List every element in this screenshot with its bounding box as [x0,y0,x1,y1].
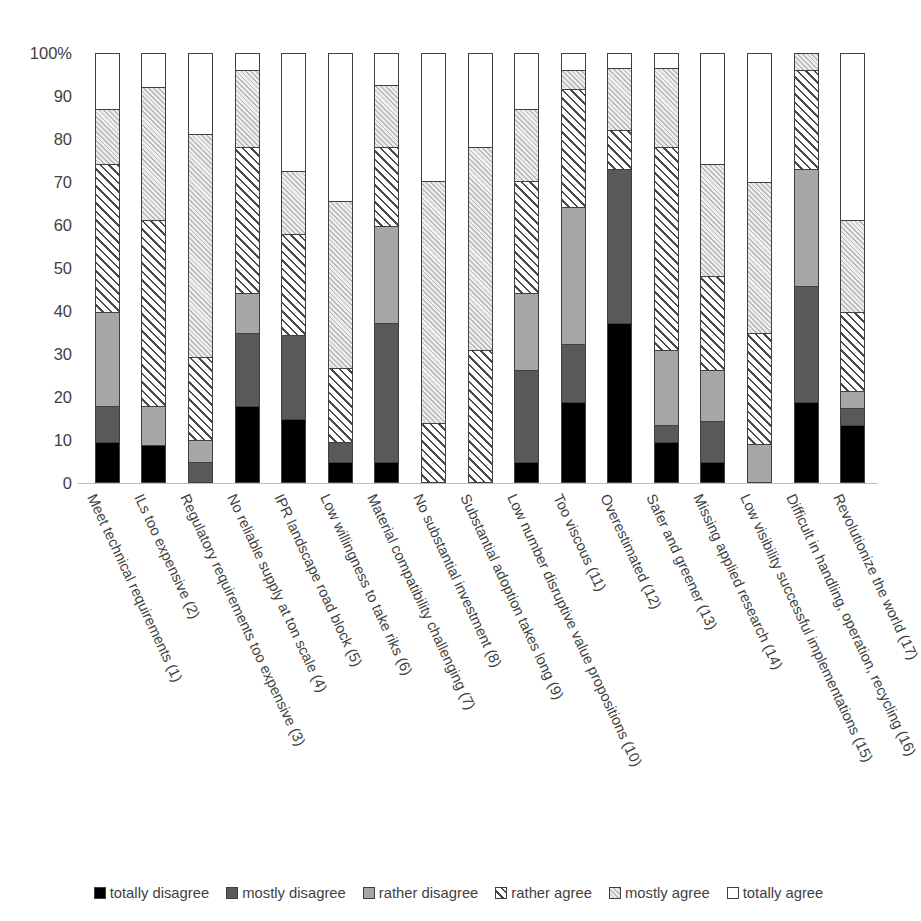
bar-segment-rather-agree[interactable] [469,351,492,482]
bar-segment-rather-agree[interactable] [329,369,352,444]
bar-column[interactable] [141,53,166,483]
bar-segment-rather-disagree[interactable] [562,208,585,345]
stacked-bar[interactable] [654,53,679,483]
bar-segment-mostly-disagree[interactable] [795,287,818,403]
bar-segment-totally-disagree[interactable] [236,407,259,482]
bar-segment-rather-agree[interactable] [189,358,212,441]
bar-segment-totally-disagree[interactable] [375,463,398,482]
stacked-bar[interactable] [95,53,120,483]
bar-segment-rather-agree[interactable] [375,148,398,227]
legend-item[interactable]: totally agree [727,886,824,901]
bar-segment-totally-agree[interactable] [608,54,631,69]
stacked-bar[interactable] [607,53,632,483]
bar-segment-rather-agree[interactable] [748,334,771,446]
bar-segment-totally-disagree[interactable] [282,420,305,482]
bar-segment-totally-agree[interactable] [142,54,165,88]
bar-segment-rather-disagree[interactable] [748,445,771,482]
stacked-bar[interactable] [281,53,306,483]
bar-segment-rather-disagree[interactable] [236,294,259,335]
bar-segment-totally-agree[interactable] [422,54,445,182]
bar-segment-mostly-disagree[interactable] [562,345,585,403]
bar-segment-totally-agree[interactable] [189,54,212,135]
bar-segment-totally-agree[interactable] [236,54,259,71]
bar-segment-totally-agree[interactable] [329,54,352,202]
bar-column[interactable] [95,53,120,483]
bar-segment-totally-disagree[interactable] [562,403,585,482]
bar-segment-mostly-agree[interactable] [422,182,445,424]
bar-segment-rather-agree[interactable] [282,235,305,336]
bar-column[interactable] [468,53,493,483]
bar-segment-rather-disagree[interactable] [841,392,864,409]
bar-segment-mostly-disagree[interactable] [189,463,212,482]
bar-segment-mostly-agree[interactable] [375,86,398,148]
bar-segment-mostly-disagree[interactable] [701,422,724,463]
bar-segment-mostly-disagree[interactable] [236,334,259,407]
stacked-bar[interactable] [561,53,586,483]
bar-segment-totally-disagree[interactable] [608,324,631,482]
bar-segment-rather-disagree[interactable] [655,351,678,426]
stacked-bar[interactable] [794,53,819,483]
bar-segment-mostly-agree[interactable] [96,110,119,166]
bar-segment-mostly-agree[interactable] [142,88,165,221]
stacked-bar[interactable] [468,53,493,483]
bar-column[interactable] [514,53,539,483]
bar-segment-totally-agree[interactable] [701,54,724,165]
bar-column[interactable] [374,53,399,483]
bar-segment-totally-agree[interactable] [748,54,771,183]
bar-column[interactable] [281,53,306,483]
bar-segment-mostly-disagree[interactable] [282,336,305,420]
bar-segment-rather-agree[interactable] [515,182,538,293]
bar-segment-totally-agree[interactable] [282,112,305,172]
bar-segment-mostly-agree[interactable] [748,183,771,334]
bar-segment-totally-disagree[interactable] [515,463,538,482]
bar-segment-mostly-agree[interactable] [655,69,678,148]
legend-item[interactable]: rather agree [495,886,592,901]
stacked-bar[interactable] [235,53,260,483]
bar-segment-rather-agree[interactable] [795,71,818,169]
bar-segment-mostly-agree[interactable] [469,148,492,351]
bar-segment-mostly-disagree[interactable] [96,407,119,443]
bar-column[interactable] [747,53,772,483]
bar-segment-totally-disagree[interactable] [142,446,165,482]
bar-segment-rather-disagree[interactable] [795,170,818,288]
legend-item[interactable]: totally disagree [94,886,210,901]
bar-segment-totally-disagree[interactable] [96,443,119,482]
bar-segment-mostly-disagree[interactable] [515,371,538,463]
bar-segment-totally-agree[interactable] [96,54,119,110]
bar-segment-mostly-disagree[interactable] [375,324,398,463]
bar-segment-rather-disagree[interactable] [189,441,212,462]
bar-segment-mostly-agree[interactable] [841,221,864,313]
bar-segment-rather-disagree[interactable] [515,294,538,371]
bar-segment-totally-agree[interactable] [562,54,585,71]
stacked-bar[interactable] [840,53,865,483]
bar-column[interactable] [794,53,819,483]
bar-segment-rather-agree[interactable] [422,424,445,482]
stacked-bar[interactable] [141,53,166,483]
bar-segment-rather-disagree[interactable] [701,371,724,422]
bar-segment-totally-disagree[interactable] [841,426,864,482]
bar-segment-mostly-agree[interactable] [701,165,724,276]
bar-segment-mostly-disagree[interactable] [608,170,631,324]
bar-column[interactable] [654,53,679,483]
bar-segment-mostly-agree[interactable] [795,54,818,71]
bar-segment-totally-agree[interactable] [841,54,864,221]
bar-segment-totally-agree[interactable] [655,54,678,69]
bar-column[interactable] [421,53,446,483]
bar-segment-mostly-disagree[interactable] [841,409,864,426]
stacked-bar[interactable] [747,53,772,483]
bar-segment-totally-agree[interactable] [469,54,492,148]
bar-segment-mostly-agree[interactable] [236,71,259,148]
bar-segment-rather-agree[interactable] [655,148,678,351]
stacked-bar[interactable] [188,53,213,483]
stacked-bar[interactable] [700,53,725,483]
bar-segment-rather-agree[interactable] [236,148,259,294]
bar-segment-mostly-agree[interactable] [562,71,585,90]
bar-segment-rather-agree[interactable] [562,90,585,208]
bar-segment-mostly-agree[interactable] [189,135,212,358]
bar-segment-totally-disagree[interactable] [795,403,818,482]
legend-item[interactable]: rather disagree [363,886,479,901]
bar-column[interactable] [607,53,632,483]
bar-segment-totally-disagree[interactable] [329,463,352,482]
bar-segment-mostly-agree[interactable] [608,69,631,131]
bar-column[interactable] [188,53,213,483]
